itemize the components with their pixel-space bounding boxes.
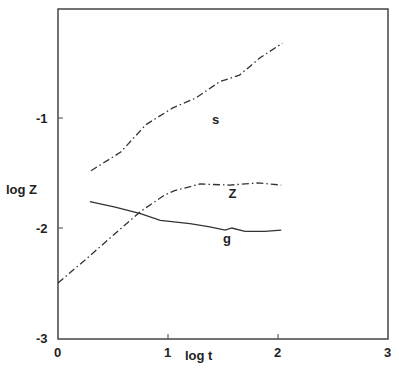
series-s-line <box>91 43 282 171</box>
curve-labels: sZg <box>212 112 237 247</box>
axis-ticks: 0123-1-2-3 <box>36 111 391 360</box>
x-tick-label: 3 <box>384 345 391 360</box>
curve-label-s: s <box>212 112 219 127</box>
series-group <box>58 43 282 283</box>
curve-label-z: Z <box>229 186 237 201</box>
series-z-line <box>58 183 281 283</box>
y-axis-label: log Z <box>6 182 37 197</box>
y-tick-label: -2 <box>36 221 48 236</box>
x-axis-label: log t <box>185 348 213 363</box>
y-tick-label: -3 <box>36 331 48 346</box>
curve-label-g: g <box>223 231 231 246</box>
x-tick-label: 2 <box>274 345 281 360</box>
plot-frame <box>58 9 388 339</box>
x-tick-label: 1 <box>164 345 171 360</box>
x-tick-label: 0 <box>54 345 61 360</box>
y-tick-label: -1 <box>36 111 48 126</box>
chart: 0123-1-2-3 sZg log Z log t <box>0 0 399 369</box>
series-g-line <box>90 202 281 232</box>
